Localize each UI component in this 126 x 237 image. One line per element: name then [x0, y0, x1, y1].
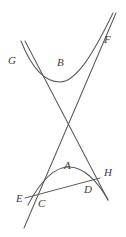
point-label-h: H — [104, 167, 112, 178]
asymptote-left-line — [25, 41, 108, 200]
point-label-d: D — [84, 184, 92, 195]
asymptote-right-line — [24, 13, 116, 228]
point-label-b: B — [57, 57, 64, 68]
hyperbola-figure: G B F A H D E C — [0, 0, 126, 237]
point-label-e: E — [16, 193, 23, 204]
point-label-c: C — [38, 198, 45, 209]
upper-hyperbola-branch — [21, 13, 113, 82]
point-label-a: A — [64, 160, 71, 171]
point-label-f: F — [104, 34, 111, 45]
point-label-g: G — [8, 55, 16, 66]
